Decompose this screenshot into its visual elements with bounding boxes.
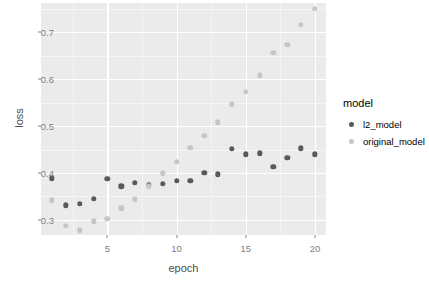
- data-point: [49, 198, 54, 203]
- y-tick-label: 0.3: [14, 214, 54, 225]
- data-point: [188, 178, 193, 183]
- gridline-major-horizontal: [41, 79, 326, 80]
- data-point: [271, 164, 276, 169]
- x-tick-mark: [176, 235, 177, 238]
- data-point: [105, 176, 110, 181]
- data-point: [215, 172, 220, 177]
- data-point: [160, 181, 165, 186]
- data-point: [215, 120, 220, 125]
- x-tick-mark: [245, 235, 246, 238]
- data-point: [174, 178, 179, 183]
- data-point: [202, 133, 207, 138]
- data-point: [77, 201, 82, 206]
- y-tick-mark: [38, 219, 41, 220]
- data-point: [119, 183, 124, 188]
- y-axis-title: loss: [13, 88, 25, 148]
- data-point: [63, 223, 68, 228]
- gridline-minor-vertical: [280, 3, 281, 235]
- x-axis-title: epoch: [41, 262, 326, 274]
- gridline-major-horizontal: [41, 32, 326, 33]
- data-point: [298, 22, 303, 27]
- y-tick-mark: [38, 32, 41, 33]
- scatter-plot: loss 0.30.40.50.60.75101520 epoch model …: [0, 0, 429, 286]
- legend-entry-list: l2_modeloriginal_model: [340, 116, 429, 150]
- gridline-minor-vertical: [211, 3, 212, 235]
- data-point: [91, 196, 96, 201]
- legend-dot-icon: [349, 139, 354, 144]
- gridline-minor-horizontal: [41, 150, 326, 151]
- data-point: [174, 159, 179, 164]
- gridline-minor-vertical: [73, 3, 74, 235]
- y-tick-mark: [38, 79, 41, 80]
- gridline-minor-vertical: [142, 3, 143, 235]
- y-tick-label: 0.4: [14, 168, 54, 179]
- gridline-major-horizontal: [41, 173, 326, 174]
- plot-panel: [41, 3, 326, 235]
- data-point: [91, 219, 96, 224]
- data-point: [285, 42, 290, 47]
- y-tick-label: 0.5: [14, 121, 54, 132]
- data-point: [257, 73, 262, 78]
- gridline-major-vertical: [315, 3, 316, 235]
- data-point: [229, 102, 234, 107]
- x-tick-mark: [314, 235, 315, 238]
- legend-swatch-icon: [343, 133, 360, 150]
- legend-label: l2_model: [363, 119, 402, 130]
- data-point: [243, 89, 248, 94]
- legend-dot-icon: [349, 122, 354, 127]
- x-tick-mark: [107, 235, 108, 238]
- y-tick-label: 0.6: [14, 74, 54, 85]
- x-tick-label: 15: [226, 243, 266, 254]
- x-tick-label: 20: [295, 243, 335, 254]
- data-point: [257, 151, 262, 156]
- gridline-minor-horizontal: [41, 9, 326, 10]
- data-point: [312, 152, 317, 157]
- gridline-major-horizontal: [41, 126, 326, 127]
- legend-label: original_model: [363, 136, 425, 147]
- data-point: [312, 6, 317, 11]
- x-tick-label: 5: [87, 243, 127, 254]
- legend: model l2_modeloriginal_model: [340, 97, 429, 150]
- legend-entry-l2_model[interactable]: l2_model: [343, 116, 429, 133]
- y-tick-mark: [38, 173, 41, 174]
- gridline-major-horizontal: [41, 220, 326, 221]
- data-point: [243, 152, 248, 157]
- gridline-minor-horizontal: [41, 103, 326, 104]
- gridline-major-vertical: [107, 3, 108, 235]
- data-point: [229, 146, 234, 151]
- data-point: [146, 183, 151, 188]
- data-point: [132, 180, 137, 185]
- y-tick-label: 0.7: [14, 27, 54, 38]
- legend-swatch-icon: [343, 116, 360, 133]
- x-tick-label: 10: [157, 243, 197, 254]
- gridline-minor-horizontal: [41, 56, 326, 57]
- legend-entry-original_model[interactable]: original_model: [343, 133, 429, 150]
- y-tick-mark: [38, 126, 41, 127]
- gridline-major-vertical: [246, 3, 247, 235]
- data-point: [160, 171, 165, 176]
- data-point: [63, 203, 68, 208]
- data-point: [77, 228, 82, 233]
- data-point: [285, 155, 290, 160]
- gridline-major-vertical: [177, 3, 178, 235]
- data-point: [119, 206, 124, 211]
- data-point: [202, 170, 207, 175]
- gridline-minor-horizontal: [41, 196, 326, 197]
- legend-title: model: [343, 97, 429, 109]
- data-point: [132, 197, 137, 202]
